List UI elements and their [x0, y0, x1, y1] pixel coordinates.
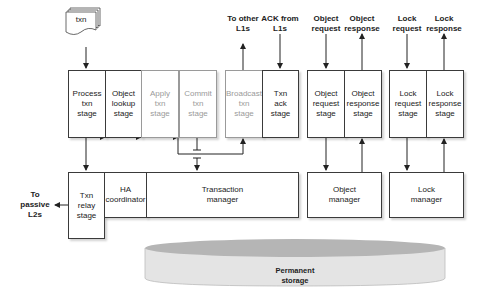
lock-manager[interactable]: Lock manager [389, 172, 464, 218]
object-manager[interactable]: Object manager [307, 172, 382, 218]
stage-object-response[interactable]: Object response stage [344, 70, 382, 138]
connector-lines [0, 0, 487, 305]
txn-relay-stage[interactable]: Txn relay stage [68, 172, 105, 239]
object-response-label: Object response [340, 14, 384, 34]
relay-label: Txn relay stage [77, 191, 97, 221]
ack-from-l1s-label: ACK from L1s [258, 14, 302, 34]
stage-apply[interactable]: Apply txn stage [141, 70, 179, 138]
stage-label: Commit txn stage [184, 89, 212, 119]
lock-response-label: Lock response [422, 14, 466, 34]
ha-coordinator[interactable]: HA coordinator [104, 172, 147, 218]
transaction-manager[interactable]: Transaction manager [146, 172, 299, 218]
permanent-storage-label: Permanent storage [255, 266, 335, 286]
txn-manager-label: Transaction manager [202, 185, 244, 205]
stage-label: Object lookup stage [112, 89, 136, 119]
stage-broadcast[interactable]: Broadcast txn stage [225, 70, 263, 138]
stage-label: Process txn stage [73, 89, 102, 119]
stage-object-request[interactable]: Object request stage [307, 70, 345, 138]
stage-ack[interactable]: Txn ack stage [262, 70, 299, 138]
stage-process[interactable]: Process txn stage [68, 70, 106, 138]
stage-lookup[interactable]: Object lookup stage [105, 70, 142, 138]
stage-label: Object response stage [347, 89, 380, 119]
stage-lock-request[interactable]: Lock request stage [389, 70, 427, 138]
stage-label: Txn ack stage [271, 89, 291, 119]
stage-lock-response[interactable]: Lock response stage [426, 70, 464, 138]
stage-commit[interactable]: Commit txn stage [179, 70, 217, 138]
to-passive-l2s-label: To passive L2s [18, 190, 52, 220]
stage-label: Lock request stage [395, 89, 422, 119]
stage-label: Object request stage [313, 89, 340, 119]
lock-manager-label: Lock manager [411, 185, 443, 205]
stage-label: Broadcast txn stage [226, 89, 262, 119]
txn-document-label: txn [66, 15, 96, 25]
stage-label: Apply txn stage [150, 89, 170, 119]
object-manager-label: Object manager [329, 185, 361, 205]
stage-label: Lock response stage [429, 89, 462, 119]
ha-label: HA coordinator [105, 185, 145, 205]
